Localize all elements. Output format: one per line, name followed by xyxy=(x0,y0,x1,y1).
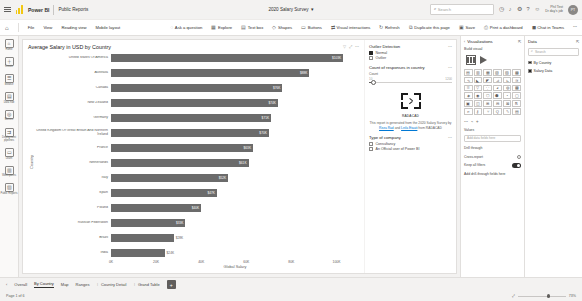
ribbon-chart-icon[interactable]: ≋ xyxy=(512,77,521,84)
line-stacked-column-icon[interactable]: ⊿ xyxy=(493,77,502,84)
tool-print-dashboard[interactable]: ⎙ Print a dashboard xyxy=(484,25,523,30)
checkbox-by-country[interactable] xyxy=(528,61,532,65)
document-title-chevron-down-icon[interactable]: ▾ xyxy=(311,7,314,12)
get-more-visuals-icon[interactable]: ⋯ xyxy=(464,119,468,124)
checkbox-salary-data[interactable] xyxy=(528,69,532,73)
checkbox-consultancy[interactable] xyxy=(369,142,373,146)
checkbox-outlier[interactable] xyxy=(369,56,373,60)
kpi-icon[interactable]: ◫ xyxy=(474,100,483,107)
more-options-icon[interactable]: ⋯ xyxy=(448,135,452,140)
funnel-chart-icon[interactable]: ▽ xyxy=(474,85,483,92)
tool-explore[interactable]: ▦ Explore xyxy=(211,25,232,30)
rail-item-home[interactable]: ⌂ Home xyxy=(0,39,18,51)
rail-item-learn[interactable]: ▭ Learn xyxy=(0,148,18,160)
bar-row[interactable]: United States Of America$103K xyxy=(35,53,359,63)
scatter-chart-icon[interactable]: ⁛ xyxy=(483,85,492,92)
bar[interactable]: $63K xyxy=(111,144,253,152)
bar[interactable]: $61K xyxy=(111,159,249,167)
more-options-icon[interactable]: ⋯ xyxy=(448,44,452,49)
toggle-keep-all-filters[interactable] xyxy=(512,163,521,168)
bar-row[interactable]: France$63K xyxy=(35,143,359,153)
shape-map-icon[interactable]: ⬡ xyxy=(483,92,492,99)
python-visual-icon[interactable]: ᴘ xyxy=(464,108,473,115)
bar-row[interactable]: Spain$47K xyxy=(35,188,359,198)
page-tab-map[interactable]: Map xyxy=(61,282,69,288)
ribbon-item-file[interactable]: File xyxy=(28,25,35,30)
line-clustered-column-icon[interactable]: ⊾ xyxy=(503,77,512,84)
bar-chart-visual[interactable]: Average Salary in USD by Country ▽ ⤢ ⋯ C… xyxy=(23,40,364,273)
global-search-input[interactable]: ⌕ Search xyxy=(430,4,494,15)
ribbon-item-reading-view[interactable]: Reading view xyxy=(61,25,86,30)
bar[interactable]: $47K xyxy=(111,189,217,197)
decomposition-tree-icon[interactable]: ⑂ xyxy=(483,108,492,115)
filled-map-icon[interactable]: ◉ xyxy=(474,92,483,99)
pie-chart-icon[interactable]: ◕ xyxy=(493,85,502,92)
tool-visual-interactions[interactable]: ⇄ Visual interactions xyxy=(331,25,371,30)
data-search-input[interactable]: ⌕ Search xyxy=(528,48,579,56)
avatar[interactable]: PT xyxy=(568,5,578,15)
chevron-left-icon[interactable]: ‹ xyxy=(6,282,7,287)
bar[interactable]: $103K xyxy=(111,54,343,62)
focus-mode-icon[interactable]: ⤢ xyxy=(349,44,352,49)
100-stacked-bar-icon[interactable]: ▨ xyxy=(503,69,512,76)
bar-row[interactable]: Italy$52K xyxy=(35,173,359,183)
document-title[interactable]: 2020 Salary Survey xyxy=(268,7,308,12)
tool-buttons[interactable]: ▭ Buttons xyxy=(301,25,322,30)
chevron-left-icon[interactable]: ‹ xyxy=(464,40,465,44)
checkbox-normal[interactable] xyxy=(369,51,373,55)
stacked-bar-chart-icon[interactable]: ▤ xyxy=(464,69,473,76)
slicer-icon[interactable]: ⊞ xyxy=(483,100,492,107)
q-and-a-icon[interactable]: Q xyxy=(493,108,502,115)
tool-ask-a-question[interactable]: ◌ Ask a question xyxy=(170,25,202,30)
line-chart-icon[interactable]: ∿ xyxy=(464,77,473,84)
company-option-consultancy[interactable]: Consultancy xyxy=(369,142,452,146)
option-cross-report[interactable]: Cross-report xyxy=(464,155,521,159)
filter-icon[interactable]: ▽ xyxy=(343,44,346,49)
rail-item-deployment-pipelines[interactable]: ⇉ Deployment pipelines xyxy=(0,128,18,143)
page-tab-country-detail[interactable]: ⋮ Country Detail xyxy=(96,282,126,288)
bar[interactable]: $70K xyxy=(111,129,269,137)
bar-row[interactable]: Poland$40K xyxy=(35,203,359,213)
tool-refresh[interactable]: ↻ Refresh xyxy=(379,25,399,30)
outlier-option-outlier[interactable]: Outlier xyxy=(369,56,452,60)
bar-row[interactable]: Germany$71K xyxy=(35,113,359,123)
bar[interactable]: $76K xyxy=(111,84,282,92)
bar[interactable]: $52K xyxy=(111,174,228,182)
page-tab-overall[interactable]: Overall xyxy=(14,282,27,288)
bar-row[interactable]: India$24K xyxy=(35,248,359,258)
feedback-icon[interactable]: ☺ xyxy=(535,7,541,13)
page-tab-menu-icon[interactable]: ⋮ xyxy=(133,282,136,286)
table-icon[interactable]: ⊟ xyxy=(493,100,502,107)
credit-link-leila-etaati[interactable]: Leila Etaati xyxy=(401,126,417,130)
count-responses-slicer[interactable]: Count of responses in country ⋯ Count 10… xyxy=(369,65,452,86)
credit-link-reza-rad[interactable]: Reza Rad xyxy=(379,126,394,130)
settings-gear-icon[interactable]: ⚙ xyxy=(517,7,522,13)
pin-icon[interactable]: ⇱ xyxy=(576,39,579,44)
values-field-well[interactable]: Add data fields here xyxy=(464,135,521,142)
azure-map-icon[interactable]: ⬢ xyxy=(493,92,502,99)
card-icon[interactable]: ▢ xyxy=(512,92,521,99)
app-menu-icon[interactable] xyxy=(4,6,11,13)
bar-row[interactable]: Brazil$28K xyxy=(35,233,359,243)
rail-item-create[interactable]: ＋ Create xyxy=(0,57,18,69)
donut-chart-icon[interactable]: ◍ xyxy=(503,85,512,92)
company-option-official-user[interactable]: An Official user of Power BI xyxy=(369,147,452,151)
data-field-by-country[interactable]: By Country xyxy=(528,61,579,65)
rail-item-workspaces[interactable]: ▥ Workspaces xyxy=(0,166,18,178)
gauge-icon[interactable]: ◔ xyxy=(503,92,512,99)
bar[interactable]: $24K xyxy=(111,249,165,257)
rail-item-public-reports[interactable]: ▨ Public Reports xyxy=(0,183,18,195)
bar[interactable]: $40K xyxy=(111,204,201,212)
drill-through-well[interactable]: Add drill-through fields here xyxy=(464,172,521,176)
tool-chat-in-teams[interactable]: ◼ Chat in Teams xyxy=(532,25,564,30)
bar-row[interactable]: United Kingdom Of Great Britain And Nort… xyxy=(35,128,359,138)
page-tab-ranges[interactable]: Ranges xyxy=(76,282,90,288)
smart-narrative-icon[interactable]: ✎ xyxy=(503,108,512,115)
page-tab-by-country[interactable]: By Country xyxy=(34,281,54,288)
outlier-detection-slicer[interactable]: Outlier Detection ⋯ Normal Outlier xyxy=(369,44,452,60)
add-page-button[interactable]: + xyxy=(167,280,176,289)
r-visual-icon[interactable]: Ꭱ xyxy=(512,100,521,107)
bar-row[interactable]: New Zealand$74K xyxy=(35,98,359,108)
bar[interactable]: $71K xyxy=(111,114,271,122)
fit-to-page-icon[interactable]: ⤢ xyxy=(512,294,515,298)
